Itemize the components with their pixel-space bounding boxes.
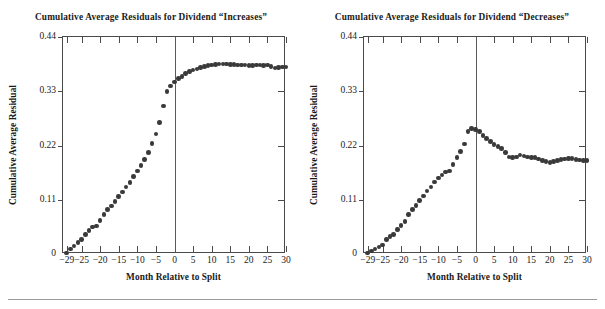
x-tick-increases-10	[249, 246, 250, 252]
x-tick-top-increases-11	[267, 37, 268, 43]
x-tick-label-increases-1: −25	[74, 256, 89, 266]
y-tick-label-decreases-1: 0.33	[340, 87, 357, 97]
x-tick-increases-11	[267, 246, 268, 252]
x-tick-label-decreases-8: 10	[508, 256, 518, 266]
x-tick-label-decreases-12: 30	[582, 256, 592, 266]
x-tick-decreases-2	[401, 246, 402, 252]
x-tick-top-increases-7	[193, 37, 194, 43]
panel-decreases: Cumulative Average Residuals for Dividen…	[301, 0, 603, 290]
data-point	[462, 142, 467, 147]
x-tick-increases-8	[212, 246, 213, 252]
x-tick-label-increases-2: −20	[93, 256, 108, 266]
x-tick-label-decreases-10: 20	[545, 256, 555, 266]
figure-container: Cumulative Average Residuals for Dividen…	[0, 0, 605, 309]
zero-reference-line-increases	[175, 37, 176, 252]
x-tick-label-increases-5: −5	[151, 256, 161, 266]
data-point	[139, 163, 144, 168]
data-point	[585, 158, 590, 163]
data-point	[391, 232, 396, 237]
x-tick-label-decreases-2: −20	[394, 256, 409, 266]
data-point	[157, 120, 162, 125]
y-tick-label-decreases-0: 0.44	[340, 32, 357, 42]
data-point	[154, 132, 159, 137]
x-tick-increases-3	[119, 246, 120, 252]
x-tick-top-increases-3	[119, 37, 120, 43]
x-tick-label-increases-0: −29	[59, 256, 74, 266]
plot-area-increases: 0.440.330.220.110−29−25−20−15−10−5051015…	[62, 36, 285, 253]
x-tick-label-increases-8: 10	[207, 256, 217, 266]
footer-divider	[8, 299, 597, 300]
y-axis-title-label-increases: Cumulative Average Residual	[8, 84, 18, 204]
y-tick-label-increases-4: 0	[51, 249, 56, 259]
plot-area-decreases: 0.440.330.220.110−29−25−20−15−10−5051015…	[363, 36, 586, 253]
x-tick-top-decreases-0	[368, 37, 369, 43]
y-tick-label-increases-3: 0.11	[40, 195, 56, 205]
data-point	[165, 89, 170, 94]
x-tick-top-increases-10	[249, 37, 250, 43]
x-tick-top-decreases-7	[494, 37, 495, 43]
x-tick-top-increases-0	[67, 37, 68, 43]
x-tick-label-decreases-1: −25	[375, 256, 390, 266]
data-point	[395, 227, 400, 232]
data-point	[447, 169, 452, 174]
data-point	[131, 174, 136, 179]
data-point	[380, 243, 385, 248]
x-tick-top-decreases-12	[587, 37, 588, 43]
x-tick-top-decreases-10	[550, 37, 551, 43]
x-tick-label-increases-9: 15	[226, 256, 236, 266]
x-tick-top-increases-8	[212, 37, 213, 43]
data-point	[284, 65, 289, 70]
x-tick-label-decreases-7: 5	[492, 256, 497, 266]
chart-title-increases: Cumulative Average Residuals for Dividen…	[0, 12, 302, 22]
x-tick-label-increases-6: 0	[172, 256, 177, 266]
y-tick-label-decreases-2: 0.22	[340, 141, 357, 151]
y-tick-label-decreases-3: 0.11	[341, 195, 357, 205]
x-tick-top-decreases-8	[513, 37, 514, 43]
y-tick-label-increases-0: 0.44	[39, 32, 56, 42]
data-point	[124, 185, 129, 190]
x-tick-top-increases-2	[100, 37, 101, 43]
y-tick-label-increases-2: 0.22	[39, 141, 56, 151]
x-tick-top-increases-9	[230, 37, 231, 43]
x-tick-label-decreases-6: 0	[473, 256, 478, 266]
x-tick-label-decreases-5: −5	[452, 256, 462, 266]
x-tick-decreases-11	[568, 246, 569, 252]
x-tick-label-increases-4: −10	[130, 256, 145, 266]
data-point	[120, 190, 125, 195]
chart-title-decreases: Cumulative Average Residuals for Dividen…	[301, 12, 603, 22]
y-axis-title-increases: Cumulative Average Residual	[6, 36, 20, 253]
data-point	[161, 104, 166, 109]
x-tick-label-increases-7: 5	[191, 256, 196, 266]
data-point	[417, 198, 422, 203]
x-tick-top-decreases-9	[531, 37, 532, 43]
x-tick-label-increases-10: 20	[244, 256, 254, 266]
y-tick-increases-3	[58, 200, 63, 201]
y-tick-right-decreases-1	[579, 91, 585, 92]
data-point	[94, 224, 99, 229]
x-tick-label-decreases-11: 25	[564, 256, 574, 266]
x-tick-decreases-12	[587, 246, 588, 252]
panel-increases: Cumulative Average Residuals for Dividen…	[0, 0, 302, 290]
data-point	[146, 150, 151, 155]
y-tick-right-increases-3	[278, 200, 284, 201]
x-tick-decreases-8	[513, 246, 514, 252]
data-point	[432, 180, 437, 185]
data-point	[113, 199, 118, 204]
data-point	[410, 207, 415, 212]
x-tick-label-decreases-4: −10	[431, 256, 446, 266]
x-tick-top-increases-5	[156, 37, 157, 43]
y-axis-title-decreases: Cumulative Average Residual	[307, 36, 321, 253]
y-tick-decreases-2	[359, 146, 364, 147]
data-point	[455, 155, 460, 160]
data-point	[399, 223, 404, 228]
x-tick-increases-5	[156, 246, 157, 252]
data-point	[458, 149, 463, 154]
x-tick-increases-7	[193, 246, 194, 252]
data-point	[98, 218, 103, 223]
x-tick-top-decreases-1	[383, 37, 384, 43]
x-tick-decreases-9	[531, 246, 532, 252]
y-tick-increases-0	[58, 37, 63, 38]
x-tick-top-increases-1	[82, 37, 83, 43]
x-tick-top-increases-4	[137, 37, 138, 43]
data-point	[109, 204, 114, 209]
